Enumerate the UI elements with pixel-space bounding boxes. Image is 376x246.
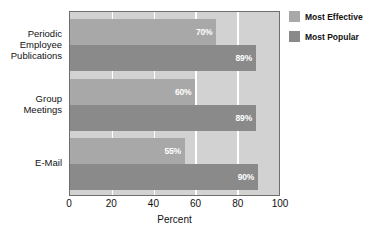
bar: 70% [70, 19, 216, 45]
plot-area: 70%89%60%89%55%90% [69, 11, 280, 196]
category-label-line: Meetings [23, 104, 62, 115]
bar-value-label: 90% [238, 172, 254, 182]
x-axis-ticks: 020406080100 [69, 198, 280, 212]
category-label: E-Mail [35, 157, 62, 168]
bar-value-label: 60% [175, 87, 191, 97]
category-label-line: E-Mail [35, 157, 62, 168]
x-axis-tick-label: 20 [106, 198, 117, 209]
category-label-line: Employee [11, 39, 62, 50]
legend: Most EffectiveMost Popular [289, 11, 375, 51]
legend-swatch [289, 31, 300, 42]
legend-label: Most Popular [305, 32, 359, 42]
category-label: GroupMeetings [23, 93, 62, 115]
x-axis-tick-label: 100 [272, 198, 289, 209]
category-label-line: Group [23, 93, 62, 104]
x-axis-title: Percent [69, 214, 280, 225]
bar: 55% [70, 138, 185, 164]
bar-value-label: 89% [236, 53, 252, 63]
bar-value-label: 55% [165, 146, 181, 156]
legend-item: Most Effective [289, 11, 375, 22]
bar-value-label: 70% [196, 27, 212, 37]
bar-chart: PeriodicEmployeePublicationsGroupMeeting… [0, 0, 376, 246]
bar: 89% [70, 45, 256, 71]
category-label-line: Periodic [11, 28, 62, 39]
legend-label: Most Effective [305, 12, 363, 22]
bar-value-label: 89% [236, 113, 252, 123]
x-axis-tick-label: 40 [148, 198, 159, 209]
bar: 89% [70, 105, 256, 131]
bar: 90% [70, 164, 258, 190]
category-label-line: Publications [11, 50, 62, 61]
category-axis-labels: PeriodicEmployeePublicationsGroupMeeting… [0, 11, 66, 196]
legend-item: Most Popular [289, 31, 375, 42]
x-axis-tick-label: 80 [232, 198, 243, 209]
x-axis-tick-label: 60 [190, 198, 201, 209]
x-axis-tick-label: 0 [66, 198, 72, 209]
legend-swatch [289, 11, 300, 22]
bar: 60% [70, 79, 195, 105]
category-label: PeriodicEmployeePublications [11, 28, 62, 61]
